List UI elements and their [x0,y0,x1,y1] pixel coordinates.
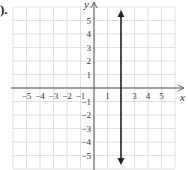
x-tick-label: 4 [146,91,151,101]
y-tick-label: −2 [81,110,91,120]
x-tick-label: 1 [105,91,110,101]
arrow-up-icon [118,10,125,17]
x-tick-label: 5 [159,91,164,101]
y-axis-label: y [83,0,89,10]
y-tick-label: 2 [87,56,92,66]
y-tick-label: 3 [87,43,92,53]
x-tick-label: −5 [22,91,32,101]
y-tick-label: 1 [87,70,92,80]
y-tick-label: −1 [81,97,91,107]
x-tick-label: −4 [35,91,45,101]
y-tick-label: −3 [81,124,91,134]
y-tick-label: 5 [87,16,92,26]
y-tick-label: −4 [81,137,91,147]
y-tick-label: 4 [87,29,92,39]
x-tick-label: −3 [49,91,59,101]
x-tick-label: −2 [62,91,72,101]
y-tick-label: −5 [81,151,91,161]
x-tick-label: 3 [132,91,137,101]
x-axis-label: x [179,91,185,103]
coordinate-plane: xy−5−4−3−2−1134554321−1−2−3−4−5 [0,0,188,170]
arrow-down-icon [118,158,125,165]
